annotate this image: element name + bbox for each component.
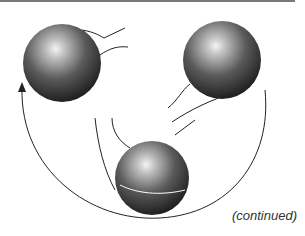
ball-left-group	[23, 24, 128, 102]
arrow-head-icon	[18, 82, 26, 92]
continued-caption: (continued)	[232, 208, 297, 223]
exercise-illustration	[0, 0, 305, 236]
ball-right-group	[168, 21, 261, 135]
ball-left	[23, 24, 101, 102]
ball-bottom-group	[95, 118, 189, 215]
ball-right	[183, 21, 261, 99]
ball-bottom	[115, 141, 189, 215]
